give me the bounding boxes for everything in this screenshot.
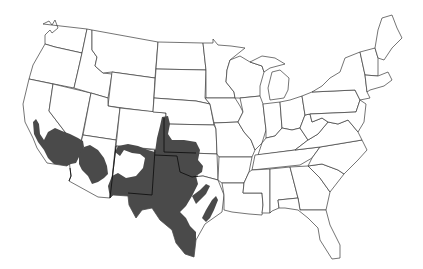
state-wyoming xyxy=(108,72,155,112)
us-state-outlines xyxy=(23,15,402,259)
state-southern-new-england xyxy=(365,72,392,92)
state-pennsylvania xyxy=(302,90,360,115)
us-range-map xyxy=(0,0,423,269)
state-north-dakota xyxy=(156,42,206,70)
state-maine xyxy=(375,15,402,60)
state-montana xyxy=(92,30,158,78)
